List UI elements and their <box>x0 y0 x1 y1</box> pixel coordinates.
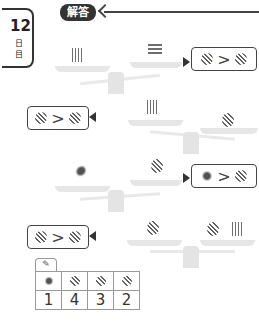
table-cell: 1 <box>36 291 62 310</box>
scale-pan-right <box>130 180 182 186</box>
table-cell: 4 <box>62 291 88 310</box>
pencil-icon: ✎ <box>35 258 57 272</box>
answer-badge: 解答 <box>60 4 96 21</box>
scale-pan-left <box>128 120 183 126</box>
scale-pan-right <box>200 128 258 134</box>
shape-icon <box>207 222 219 236</box>
answer-box-1: > <box>191 47 257 71</box>
shape-icon <box>96 276 106 286</box>
shape-icon <box>70 276 80 286</box>
header-rule <box>104 11 259 13</box>
scale-pan-right <box>130 62 182 68</box>
shape-icon <box>222 113 234 127</box>
pointer-left-icon <box>89 231 96 241</box>
table-cell: 3 <box>88 291 114 310</box>
scale-base <box>183 246 199 268</box>
shape-icon <box>69 231 81 243</box>
shape-icon <box>35 231 47 243</box>
answer-box-4: > <box>27 225 89 249</box>
result-table: 1 4 3 2 <box>35 271 140 310</box>
gt-symbol: > <box>217 50 230 69</box>
gt-symbol: > <box>217 167 230 186</box>
shape-icon <box>151 159 163 173</box>
day-kanji-1: 日 <box>15 37 23 48</box>
scale-base <box>183 132 199 154</box>
shape-icon <box>69 112 81 124</box>
table-row <box>36 272 140 291</box>
scale-pan-left <box>127 240 182 246</box>
shape-icon <box>35 112 47 124</box>
scale-pan-left <box>55 186 110 192</box>
shape-icon <box>235 53 247 65</box>
table-cell <box>88 272 114 291</box>
shape-icon <box>41 274 55 288</box>
scale-pan-right <box>200 240 255 246</box>
table-cell <box>36 272 62 291</box>
day-kanji-2: 目 <box>15 48 23 59</box>
table-row: 1 4 3 2 <box>36 291 140 310</box>
day-number: 12 <box>10 17 31 35</box>
table-cell <box>62 272 88 291</box>
shape-icon <box>201 53 213 65</box>
day-tab: 12 日 目 <box>0 6 37 68</box>
shape-icon <box>72 48 84 62</box>
pointer-right-icon <box>183 57 190 67</box>
table-cell: 2 <box>114 291 140 310</box>
shape-icon <box>232 222 244 236</box>
gt-symbol: > <box>51 228 64 247</box>
scale-base <box>108 72 124 94</box>
pointer-left-icon <box>89 112 96 122</box>
shape-icon <box>148 44 162 54</box>
shape-icon <box>199 168 216 185</box>
shape-icon <box>147 221 159 235</box>
answer-box-3: > <box>191 164 257 188</box>
shape-icon <box>122 276 132 286</box>
scale-base <box>108 190 124 212</box>
pointer-right-icon <box>183 173 190 183</box>
shape-icon <box>72 162 90 180</box>
answer-box-2: > <box>27 106 89 130</box>
shape-icon <box>147 100 159 114</box>
shape-icon <box>235 170 247 182</box>
scale-pan-left <box>55 66 110 72</box>
gt-symbol: > <box>51 109 64 128</box>
table-cell <box>114 272 140 291</box>
